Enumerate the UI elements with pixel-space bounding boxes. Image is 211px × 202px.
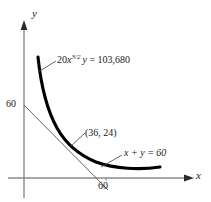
x-axis-label: x bbox=[196, 170, 201, 181]
y-axis-arrow-head-icon bbox=[21, 20, 28, 30]
curve-eq-coefficient: 20 bbox=[57, 54, 67, 65]
y-tick-label-60: 60 bbox=[6, 99, 16, 109]
tangent-point-label: (36, 24) bbox=[85, 128, 117, 138]
x-tick-label-60: 60 bbox=[98, 181, 108, 191]
curve-eq-variable-y: y bbox=[82, 54, 86, 65]
math-figure: y x 60 60 20x3/2 y = 103,680 (36, 24) x … bbox=[0, 0, 211, 202]
x-axis-arrow-head-icon bbox=[184, 175, 194, 182]
y-axis-label: y bbox=[32, 8, 37, 19]
line-equation-label: x + y = 60 bbox=[124, 148, 166, 158]
curve-eq-exponent: 3/2 bbox=[71, 53, 80, 61]
point-label-leader-line bbox=[71, 133, 85, 146]
constraint-line-x-plus-y bbox=[24, 105, 108, 190]
curve-label-leader-line bbox=[38, 61, 56, 72]
curve-eq-equals: = bbox=[89, 54, 95, 65]
curve-eq-value: 103,680 bbox=[98, 54, 131, 65]
curve-equation-label: 20x3/2 y = 103,680 bbox=[57, 54, 130, 65]
plot-canvas bbox=[0, 0, 211, 202]
